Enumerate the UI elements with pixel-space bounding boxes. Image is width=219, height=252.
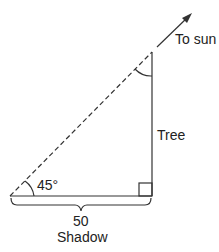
right-angle-marker <box>139 183 152 196</box>
angle-arc-45 <box>25 181 34 196</box>
shadow-label: Shadow <box>57 230 108 244</box>
sun-label: To sun <box>175 32 216 46</box>
length-label: 50 <box>73 214 89 228</box>
sun-ray-dashed <box>10 52 152 196</box>
tree-label: Tree <box>157 128 185 142</box>
top-angle-arc <box>135 69 152 76</box>
shadow-brace <box>11 198 151 211</box>
angle-label: 45° <box>37 178 58 192</box>
